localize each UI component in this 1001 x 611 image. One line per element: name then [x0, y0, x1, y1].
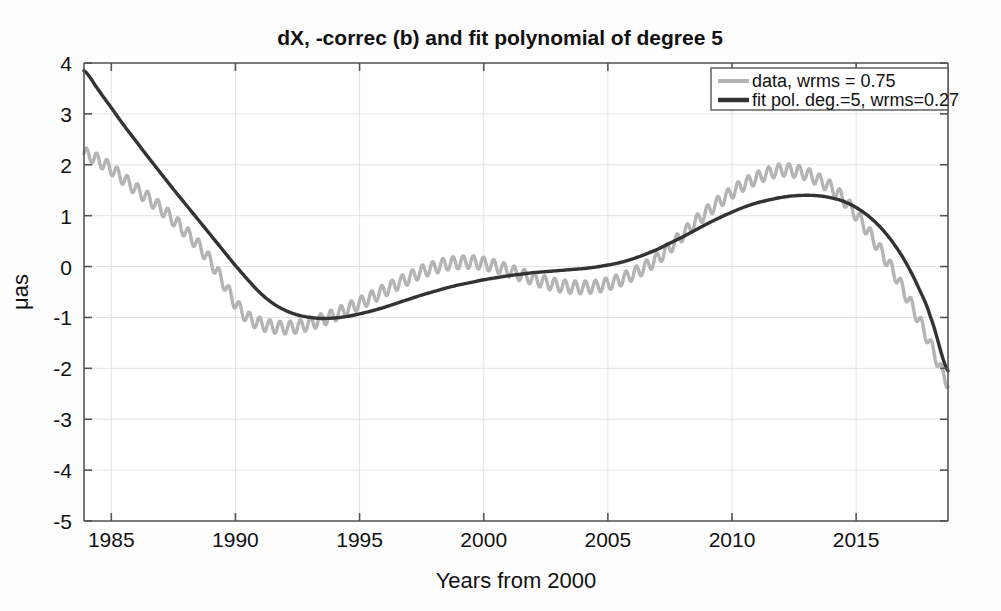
y-tick-label: -2 [53, 357, 72, 380]
chart-title: dX, -correc (b) and fit polynomial of de… [277, 26, 723, 49]
legend-label-0: data, wrms = 0.75 [752, 71, 896, 91]
x-axis-label: Years from 2000 [436, 568, 597, 593]
x-tick-label: 2015 [833, 528, 880, 551]
y-tick-label: 0 [60, 256, 72, 279]
x-tick-label: 1995 [336, 528, 383, 551]
x-tick-label: 1985 [88, 528, 135, 551]
x-tick-label: 1990 [212, 528, 259, 551]
y-tick-label: 1 [60, 205, 72, 228]
x-tick-label: 2010 [709, 528, 756, 551]
plot-area-background [84, 63, 948, 521]
chart-figure: 1985199019952000200520102015 43210-1-2-3… [0, 0, 1001, 611]
legend-label-1: fit pol. deg.=5, wrms=0.27 [752, 90, 959, 110]
chart-legend: data, wrms = 0.75fit pol. deg.=5, wrms=0… [711, 68, 959, 110]
y-tick-label: -4 [53, 459, 72, 482]
y-tick-label: -5 [53, 510, 72, 533]
y-axis-label: μas [8, 274, 33, 310]
y-tick-label: 4 [60, 52, 72, 75]
x-tick-label: 2005 [585, 528, 632, 551]
y-tick-label: 3 [60, 103, 72, 126]
y-tick-label: -1 [53, 306, 72, 329]
y-tick-label: -3 [53, 408, 72, 431]
y-tick-label: 2 [60, 154, 72, 177]
x-tick-label: 2000 [460, 528, 507, 551]
